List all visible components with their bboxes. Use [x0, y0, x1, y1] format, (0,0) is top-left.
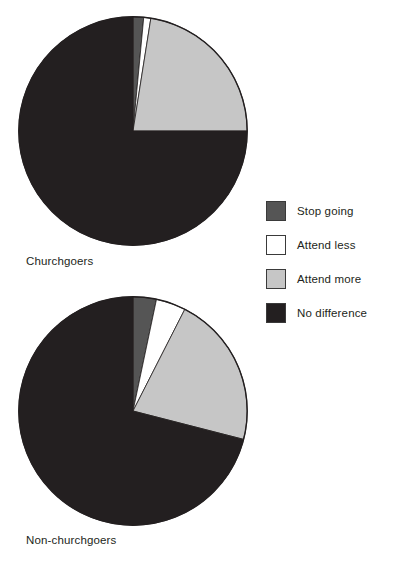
legend-swatch-no-difference	[266, 303, 286, 323]
legend-label-attend-less: Attend less	[297, 239, 356, 251]
pie-churchgoers-svg	[14, 12, 252, 250]
pie-churchgoers-slices	[19, 17, 247, 245]
pie-churchgoers-caption: Churchgoers	[26, 255, 94, 267]
pie-slice-attend-more[interactable]	[133, 18, 247, 131]
pie-nonchurchgoers-svg	[14, 292, 252, 530]
legend-item-attend-more[interactable]: Attend more	[266, 268, 391, 290]
legend-swatch-attend-more	[266, 269, 286, 289]
legend-swatch-stop-going	[266, 201, 286, 221]
legend-item-no-difference[interactable]: No difference	[266, 302, 391, 324]
legend-label-no-difference: No difference	[297, 307, 367, 319]
pie-chart-figure: Churchgoers Non-churchgoers Stop going A…	[0, 0, 393, 568]
pie-nonchurchgoers-caption: Non-churchgoers	[26, 534, 116, 546]
legend-label-attend-more: Attend more	[297, 273, 361, 285]
pie-chart-churchgoers	[14, 12, 252, 250]
legend-label-stop-going: Stop going	[297, 205, 354, 217]
legend-item-attend-less[interactable]: Attend less	[266, 234, 391, 256]
pie-chart-nonchurchgoers	[14, 292, 252, 530]
chart-legend: Stop going Attend less Attend more No di…	[266, 200, 391, 324]
legend-item-stop-going[interactable]: Stop going	[266, 200, 391, 222]
legend-swatch-attend-less	[266, 235, 286, 255]
pie-nonchurchgoers-slices	[19, 297, 247, 525]
